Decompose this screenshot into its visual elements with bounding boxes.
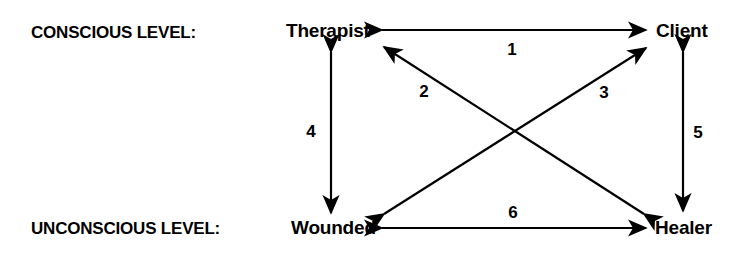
- node-healer: Healer: [655, 218, 712, 237]
- conscious-level-label: CONSCIOUS LEVEL:: [31, 24, 196, 41]
- edge-label-3: 3: [599, 84, 608, 101]
- node-therapist: Therapist: [286, 21, 370, 40]
- edge-label-4: 4: [306, 123, 315, 140]
- edge-label-6: 6: [508, 204, 517, 221]
- edge-label-2: 2: [419, 83, 428, 100]
- unconscious-level-label: UNCONSCIOUS LEVEL:: [31, 220, 220, 237]
- node-wounded: Wounded: [291, 218, 376, 237]
- diagram-canvas: CONSCIOUS LEVEL: UNCONSCIOUS LEVEL: Ther…: [0, 0, 741, 253]
- node-client: Client: [656, 21, 708, 40]
- edge-label-1: 1: [507, 41, 516, 58]
- edge-label-5: 5: [693, 124, 702, 141]
